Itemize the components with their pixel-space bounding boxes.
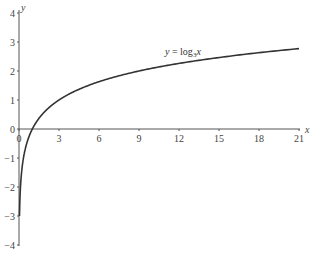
y-tick-label: −3	[4, 211, 15, 222]
x-tick-label: 6	[97, 133, 102, 144]
y-tick-label: −2	[4, 182, 15, 193]
y-tick-label: −4	[4, 240, 15, 251]
x-tick-label: 9	[137, 133, 142, 144]
log-chart: 43210−1−2−3−4 036912151821 y x y = log3x	[0, 0, 313, 254]
x-ticks: 036912151821	[17, 129, 305, 144]
axes	[19, 10, 300, 246]
curve-annotation: y = log3x	[164, 46, 201, 59]
y-tick-label: 3	[10, 37, 15, 48]
y-tick-label: 2	[10, 66, 15, 77]
y-axis-label: y	[20, 2, 26, 13]
y-tick-label: 1	[10, 95, 15, 106]
x-tick-label: 0	[17, 133, 22, 144]
x-tick-label: 3	[57, 133, 62, 144]
x-tick-label: 18	[254, 133, 264, 144]
annotation-eq: = log	[169, 46, 192, 57]
x-tick-label: 21	[294, 133, 304, 144]
x-tick-label: 12	[174, 133, 184, 144]
y-tick-label: 4	[10, 8, 15, 19]
x-tick-label: 15	[214, 133, 224, 144]
y-ticks: 43210−1−2−3−4	[4, 8, 19, 251]
y-tick-label: −1	[4, 153, 15, 164]
annotation-x: x	[195, 46, 201, 57]
x-axis-label: x	[304, 124, 310, 135]
y-tick-label: 0	[10, 124, 15, 135]
